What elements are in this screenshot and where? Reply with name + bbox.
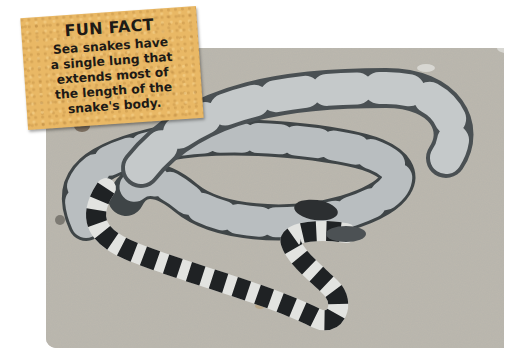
fun-fact-text: Sea snakes have a single lung that exten…: [22, 33, 203, 120]
fun-fact-note: FUN FACT Sea snakes have a single lung t…: [20, 6, 203, 130]
